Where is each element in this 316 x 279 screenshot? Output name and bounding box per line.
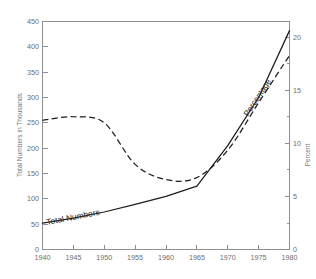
y2-ticklabel: 15 bbox=[293, 86, 301, 95]
series-line-percentage bbox=[43, 55, 290, 181]
y-axis-ticklabels-left: 0 50 100 150 200 250 300 350 400 450 bbox=[27, 17, 39, 254]
y-axis-ticks-right bbox=[285, 37, 290, 249]
y-ticklabel: 350 bbox=[27, 68, 39, 77]
y-axis-title-left: Total Numbers in Thousands bbox=[16, 92, 23, 177]
y-axis-title-right: Percent bbox=[304, 143, 311, 166]
series-line-total-numbers bbox=[43, 31, 290, 224]
x-ticklabel: 1950 bbox=[96, 253, 112, 262]
x-axis-ticklabels: 1940 1945 1950 1955 1960 1965 1970 1975 … bbox=[35, 253, 298, 262]
y-axis-ticklabels-right: 0 5 10 15 20 bbox=[293, 33, 301, 254]
series-annotation-percentage: Percentage bbox=[241, 76, 273, 118]
x-ticklabel: 1960 bbox=[158, 253, 174, 262]
y2-ticklabel: 20 bbox=[293, 33, 301, 42]
x-ticklabel: 1980 bbox=[282, 253, 298, 262]
y-ticklabel: 100 bbox=[27, 194, 39, 203]
line-chart: 0 50 100 150 200 250 300 350 400 450 Tot… bbox=[0, 0, 316, 279]
y-ticklabel: 200 bbox=[27, 144, 39, 153]
y2-ticklabel: 5 bbox=[293, 192, 297, 201]
y-ticklabel: 150 bbox=[27, 169, 39, 178]
x-ticklabel: 1975 bbox=[251, 253, 267, 262]
y-ticklabel: 250 bbox=[27, 118, 39, 127]
y-ticklabel: 300 bbox=[27, 93, 39, 102]
x-ticklabel: 1940 bbox=[35, 253, 51, 262]
y-ticklabel: 400 bbox=[27, 42, 39, 51]
series-annotation-total-numbers: Total Numbers bbox=[45, 207, 100, 227]
y-ticklabel: 450 bbox=[27, 17, 39, 26]
chart-figure: 0 50 100 150 200 250 300 350 400 450 Tot… bbox=[0, 0, 316, 279]
y-ticklabel: 50 bbox=[31, 220, 39, 229]
x-ticklabel: 1965 bbox=[189, 253, 205, 262]
y2-ticklabel: 10 bbox=[293, 139, 301, 148]
y-axis-ticks-left bbox=[43, 22, 48, 250]
x-ticklabel: 1970 bbox=[220, 253, 236, 262]
x-axis-ticks bbox=[43, 245, 290, 250]
x-ticklabel: 1945 bbox=[65, 253, 81, 262]
x-ticklabel: 1955 bbox=[127, 253, 143, 262]
